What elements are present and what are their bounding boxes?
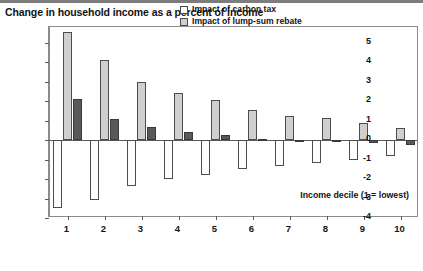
bar-net-impact-of-carbon-tax-and-rebate-decile-10 xyxy=(406,140,415,145)
legend-item-carbon-tax: Impact of carbon tax xyxy=(180,4,338,15)
bar-impact-of-lump-sum-rebate-decile-7 xyxy=(285,116,294,140)
y-tick-label-neg3: -3 xyxy=(351,192,371,202)
y-tick-neg4 xyxy=(45,218,49,219)
y-tick-label-1: 1 xyxy=(351,114,371,124)
y-tick-label-5: 5 xyxy=(351,36,371,46)
y-tick-neg1 xyxy=(45,160,49,161)
y-tick-5 xyxy=(45,43,49,44)
x-tick-label-8: 8 xyxy=(314,223,338,234)
y-tick-label-neg4: -4 xyxy=(351,211,371,221)
x-tick-5 xyxy=(216,216,217,220)
bar-impact-of-carbon-tax-decile-7 xyxy=(275,140,284,166)
y-tick-label-neg1: -1 xyxy=(351,153,371,163)
bar-impact-of-carbon-tax-decile-4 xyxy=(164,140,173,179)
x-tick-label-10: 10 xyxy=(388,223,412,234)
y-tick-neg3 xyxy=(45,199,49,200)
y-tick-label-2: 2 xyxy=(351,94,371,104)
y-tick-neg2 xyxy=(45,179,49,180)
bar-net-impact-of-carbon-tax-and-rebate-decile-5 xyxy=(221,135,230,140)
bar-net-impact-of-carbon-tax-and-rebate-decile-1 xyxy=(73,99,82,140)
bar-net-impact-of-carbon-tax-and-rebate-decile-2 xyxy=(110,119,119,140)
x-tick-label-3: 3 xyxy=(129,223,153,234)
x-tick-label-1: 1 xyxy=(55,223,79,234)
bar-impact-of-carbon-tax-decile-1 xyxy=(53,140,62,208)
y-axis-line xyxy=(49,27,50,216)
y-tick-1 xyxy=(45,121,49,122)
x-tick-label-5: 5 xyxy=(203,223,227,234)
y-tick-0 xyxy=(45,140,49,141)
bar-impact-of-carbon-tax-decile-10 xyxy=(386,140,395,156)
bar-impact-of-lump-sum-rebate-decile-5 xyxy=(211,100,220,140)
bar-net-impact-of-carbon-tax-and-rebate-decile-3 xyxy=(147,127,156,140)
bar-impact-of-carbon-tax-decile-5 xyxy=(201,140,210,175)
x-tick-1 xyxy=(68,216,69,220)
y-tick-4 xyxy=(45,62,49,63)
bar-impact-of-carbon-tax-decile-3 xyxy=(127,140,136,186)
y-tick-label-4: 4 xyxy=(351,55,371,65)
x-tick-label-6: 6 xyxy=(240,223,264,234)
bar-impact-of-carbon-tax-decile-6 xyxy=(238,140,247,169)
bar-net-impact-of-carbon-tax-and-rebate-decile-8 xyxy=(332,140,341,142)
y-tick-label-0: 0 xyxy=(351,133,371,143)
y-tick-label-3: 3 xyxy=(351,75,371,85)
bar-impact-of-carbon-tax-decile-8 xyxy=(312,140,321,163)
bar-impact-of-lump-sum-rebate-decile-8 xyxy=(322,118,331,140)
bar-net-impact-of-carbon-tax-and-rebate-decile-7 xyxy=(295,140,304,142)
y-tick-2 xyxy=(45,101,49,102)
x-tick-4 xyxy=(179,216,180,220)
x-tick-3 xyxy=(142,216,143,220)
legend-swatch-carbon-tax xyxy=(180,6,188,14)
bar-net-impact-of-carbon-tax-and-rebate-decile-4 xyxy=(184,132,193,140)
x-tick-label-7: 7 xyxy=(277,223,301,234)
x-tick-6 xyxy=(253,216,254,220)
x-tick-2 xyxy=(105,216,106,220)
bar-impact-of-lump-sum-rebate-decile-3 xyxy=(137,82,146,140)
legend-label-carbon-tax: Impact of carbon tax xyxy=(192,4,276,15)
bar-impact-of-lump-sum-rebate-decile-6 xyxy=(248,110,257,140)
legend-swatch-lump-sum-rebate xyxy=(180,18,188,26)
x-tick-7 xyxy=(290,216,291,220)
top-divider-rule xyxy=(0,0,423,3)
bar-impact-of-carbon-tax-decile-2 xyxy=(90,140,99,200)
bar-impact-of-lump-sum-rebate-decile-2 xyxy=(100,60,109,140)
x-tick-10 xyxy=(401,216,402,220)
y-tick-3 xyxy=(45,82,49,83)
x-tick-8 xyxy=(327,216,328,220)
bar-net-impact-of-carbon-tax-and-rebate-decile-6 xyxy=(258,139,267,141)
bar-impact-of-lump-sum-rebate-decile-4 xyxy=(174,93,183,140)
bar-impact-of-lump-sum-rebate-decile-10 xyxy=(396,128,405,140)
y-tick-label-neg2: -2 xyxy=(351,172,371,182)
x-tick-label-9: 9 xyxy=(351,223,375,234)
x-tick-label-2: 2 xyxy=(92,223,116,234)
x-tick-label-4: 4 xyxy=(166,223,190,234)
bar-impact-of-lump-sum-rebate-decile-1 xyxy=(63,32,72,140)
